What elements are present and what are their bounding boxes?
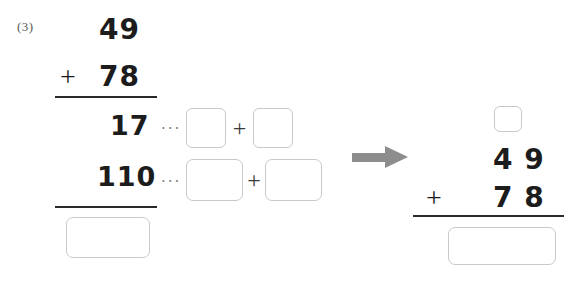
blank-box-tens-left[interactable] xyxy=(186,159,243,201)
right-rule xyxy=(413,215,564,217)
right-total-answer-box[interactable] xyxy=(448,227,556,265)
left-partial-sum-ones: 17 xyxy=(110,112,150,139)
blank-box-ones-right[interactable] xyxy=(253,108,293,148)
left-partial-sum-tens: 110 xyxy=(97,163,156,190)
right-carry-box[interactable] xyxy=(494,106,522,132)
left-leader-ones: ··· xyxy=(161,122,181,137)
left-plus-operator: + xyxy=(60,63,76,91)
arrow-shaft xyxy=(352,153,388,162)
arrow-head xyxy=(385,146,408,168)
left-leader-tens: ··· xyxy=(161,175,181,190)
right-addend-bottom: 7 8 xyxy=(493,184,545,212)
left-addend-top: 49 xyxy=(99,16,140,44)
blank-box-tens-right[interactable] xyxy=(265,159,322,201)
right-addend-top: 4 9 xyxy=(493,146,545,174)
worksheet-page: (3) 49 + 78 17 ··· + 110 ··· + xyxy=(0,0,576,281)
problem-number-label: (3) xyxy=(17,19,34,35)
left-lower-rule xyxy=(55,206,157,208)
right-arrow-icon xyxy=(352,146,410,169)
blank-box-ones-left[interactable] xyxy=(186,108,226,148)
left-upper-rule xyxy=(55,96,157,98)
right-plus-operator: + xyxy=(426,184,442,212)
decomposition-plus-tens: + xyxy=(243,168,265,192)
left-addend-bottom: 78 xyxy=(99,63,140,91)
left-total-answer-box[interactable] xyxy=(66,217,150,258)
decomposition-plus-ones: + xyxy=(226,116,253,140)
